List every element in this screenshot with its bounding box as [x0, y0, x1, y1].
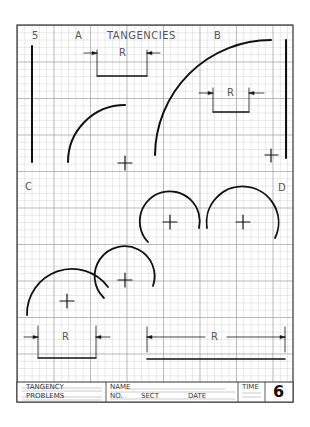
dimension-label-d: R [211, 332, 218, 342]
title-block-sheet-number: 6 [273, 384, 284, 400]
section-label-c: C [25, 182, 32, 192]
title-block-time-label: TIME [242, 384, 259, 391]
section-label-b: B [214, 31, 221, 41]
sheet-number-label: 5 [32, 31, 39, 41]
title-block-subject-line1: TANGENCY [26, 384, 64, 391]
dimension-label-b: R [227, 88, 234, 98]
dimension-label-a: R [119, 48, 126, 58]
title-block-no-label: NO. [110, 393, 123, 400]
title-block-sect-label: SECT [141, 393, 159, 400]
dimension-label-c: R [62, 332, 69, 342]
section-label-a: A [75, 31, 82, 41]
grid [17, 25, 293, 382]
section-label-d: D [278, 183, 286, 193]
title-block-subject-line2: PROBLEMS [26, 393, 64, 400]
title-block-date-label: DATE [188, 393, 206, 400]
drafting-worksheet [0, 0, 310, 427]
sheet-title: TANGENCIES [107, 31, 176, 41]
title-block-name-label: NAME [110, 384, 131, 391]
